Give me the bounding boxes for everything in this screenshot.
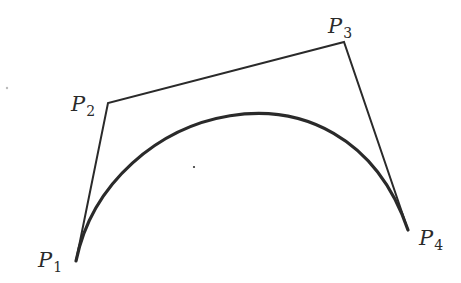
label-p2-letter: P — [71, 92, 85, 116]
bezier-diagram — [0, 0, 461, 283]
bezier-curve — [76, 113, 408, 261]
label-p3-letter: P — [328, 14, 342, 38]
label-p2-subscript: 2 — [86, 103, 95, 119]
label-p1-subscript: 1 — [53, 259, 62, 275]
label-p4-letter: P — [419, 226, 433, 250]
label-p3-subscript: 3 — [343, 25, 352, 41]
label-p3: P3 — [328, 16, 352, 40]
label-p4-subscript: 4 — [434, 237, 443, 253]
label-p1: P1 — [38, 250, 62, 274]
stray-dot — [193, 166, 195, 168]
label-p2: P2 — [71, 94, 95, 118]
stray-dot-faint — [6, 87, 8, 89]
label-p4: P4 — [419, 228, 443, 252]
label-p1-letter: P — [38, 248, 52, 272]
